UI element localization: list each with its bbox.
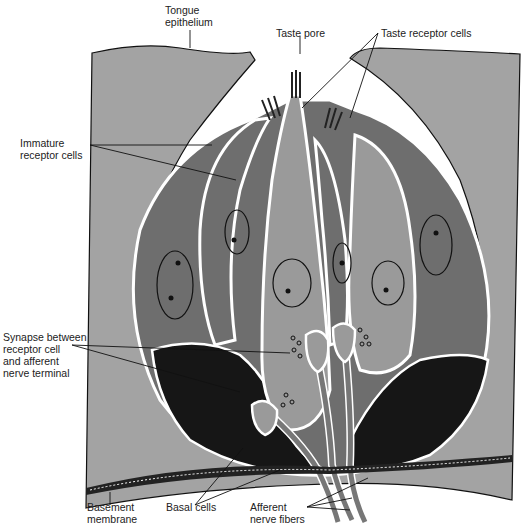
- label-tongue-epithelium: Tongue epithelium: [165, 4, 213, 28]
- label-basement-membrane: Basement membrane: [87, 501, 137, 525]
- label-afferent-nerve-fibers: Afferent nerve fibers: [250, 501, 305, 525]
- label-taste-receptor-cells: Taste receptor cells: [381, 27, 471, 39]
- taste-bud-diagram: [0, 0, 522, 529]
- label-immature-receptor-cells: Immature receptor cells: [20, 137, 82, 161]
- label-taste-pore: Taste pore: [276, 27, 325, 39]
- label-basal-cells: Basal cells: [166, 501, 216, 513]
- label-synapse: Synapse between receptor cell and affere…: [3, 331, 86, 379]
